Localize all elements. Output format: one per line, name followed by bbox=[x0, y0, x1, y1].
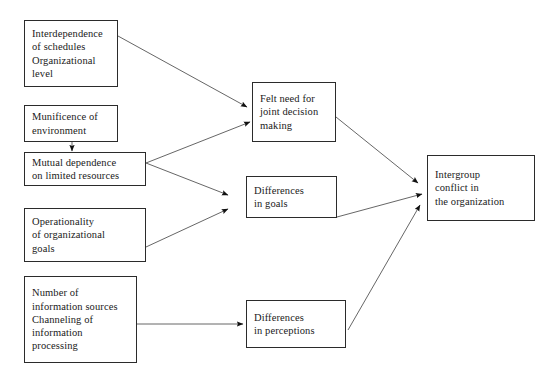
node-operationality-of-organizational-goals[interactable]: Operationalityof organizationalgoals bbox=[24, 208, 146, 262]
node-label-line: making bbox=[260, 119, 329, 132]
node-label-line: joint decision bbox=[260, 105, 329, 118]
node-label-line: Differences bbox=[254, 311, 339, 324]
node-label-line: Operationality bbox=[32, 215, 139, 228]
edge-differences-perceptions-to-intergroup-conflict bbox=[348, 205, 420, 330]
node-label-line: Felt need for bbox=[260, 92, 329, 105]
node-label-line: conflict in bbox=[435, 181, 528, 194]
node-label-line: of schedules bbox=[32, 40, 111, 53]
node-label-line: information sources bbox=[32, 300, 130, 313]
node-label-line: Organizational bbox=[32, 54, 111, 67]
edge-mutual-dependence-to-differences-goals bbox=[146, 163, 228, 195]
node-label-line: level bbox=[32, 67, 111, 80]
node-label-line: the organization bbox=[435, 195, 528, 208]
node-label-line: Interdependence bbox=[32, 27, 111, 40]
node-mutual-dependence-on-limited-resources[interactable]: Mutual dependenceon limited resources bbox=[24, 152, 146, 186]
node-label-line: Channeling of bbox=[32, 313, 130, 326]
node-interdependence-of-schedules[interactable]: Interdependenceof schedulesOrganizationa… bbox=[24, 20, 118, 87]
node-label-line: on limited resources bbox=[32, 169, 139, 182]
node-label-line: Munificence of bbox=[32, 110, 111, 123]
node-label-line: of organizational bbox=[32, 228, 139, 241]
edge-operationality-to-differences-goals bbox=[146, 209, 228, 247]
node-felt-need-for-joint-decision-making[interactable]: Felt need forjoint decisionmaking bbox=[252, 82, 336, 142]
node-label-line: in goals bbox=[254, 197, 330, 210]
node-label-line: Differences bbox=[254, 184, 330, 197]
node-label-line: information bbox=[32, 326, 130, 339]
node-label-line: Mutual dependence bbox=[32, 156, 139, 169]
node-intergroup-conflict-in-the-organization[interactable]: Intergroupconflict inthe organization bbox=[427, 155, 535, 221]
edge-mutual-dependence-to-felt-need bbox=[146, 122, 250, 163]
node-label-line: goals bbox=[32, 242, 139, 255]
node-number-of-information-sources[interactable]: Number ofinformation sourcesChanneling o… bbox=[24, 276, 137, 363]
node-label-line: environment bbox=[32, 124, 111, 137]
edge-interdependence-to-felt-need bbox=[118, 36, 247, 107]
node-munificence-of-environment[interactable]: Munificence ofenvironment bbox=[24, 105, 118, 142]
node-label-line: processing bbox=[32, 339, 130, 352]
edge-differences-goals-to-intergroup-conflict bbox=[337, 194, 422, 217]
node-label-line: Number of bbox=[32, 286, 130, 299]
edge-felt-need-to-intergroup-conflict bbox=[336, 117, 418, 183]
node-differences-in-goals[interactable]: Differencesin goals bbox=[246, 176, 337, 218]
node-differences-in-perceptions[interactable]: Differencesin perceptions bbox=[246, 300, 346, 348]
node-label-line: in perceptions bbox=[254, 324, 339, 337]
diagram-canvas: Interdependenceof schedulesOrganizationa… bbox=[0, 0, 559, 379]
node-label-line: Intergroup bbox=[435, 168, 528, 181]
